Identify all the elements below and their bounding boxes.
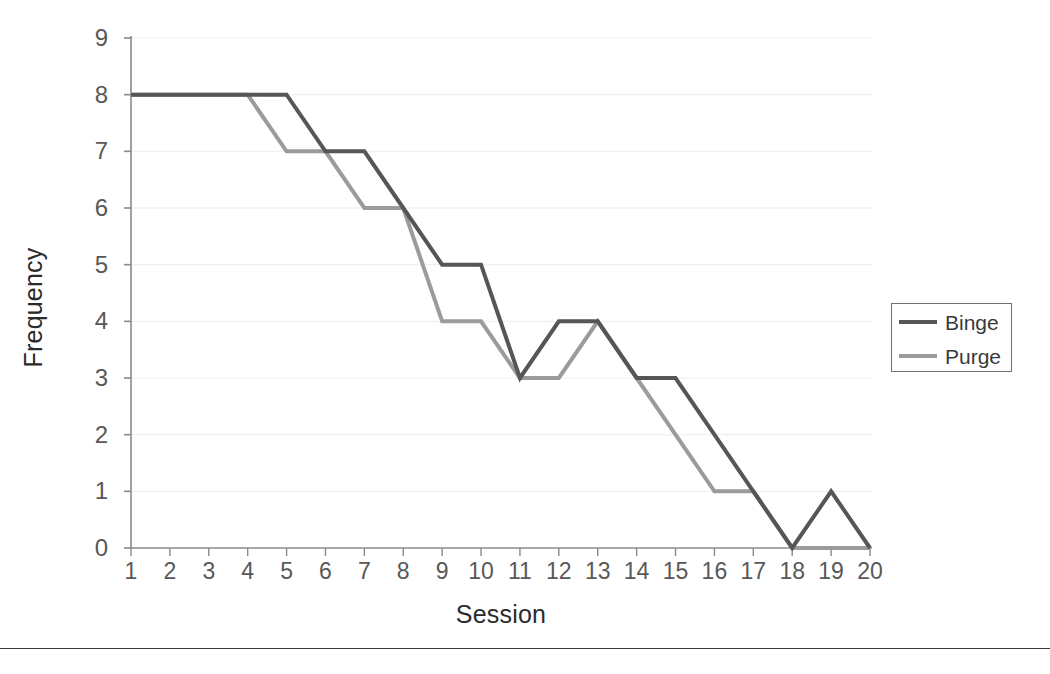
y-tick-label-7: 7 xyxy=(68,139,108,163)
legend-label-binge: Binge xyxy=(945,312,999,333)
y-tick-label-5: 5 xyxy=(68,253,108,277)
x-axis-title: Session xyxy=(131,600,871,629)
chart-legend: Binge Purge xyxy=(891,303,1012,372)
chart-figure: Frequency 0123456789 1234567891011121314… xyxy=(0,0,1050,674)
y-tick-label-0: 0 xyxy=(68,536,108,560)
y-tick-label-6: 6 xyxy=(68,196,108,220)
x-tick-label-20: 20 xyxy=(847,560,893,583)
axis-lines-group xyxy=(131,36,872,548)
y-tick-label-8: 8 xyxy=(68,83,108,107)
y-tick-label-1: 1 xyxy=(68,479,108,503)
y-tick-label-9: 9 xyxy=(68,26,108,50)
gridlines-group xyxy=(131,38,872,491)
legend-label-purge: Purge xyxy=(945,346,1001,367)
y-tick-label-3: 3 xyxy=(68,366,108,390)
footer-divider xyxy=(0,648,1050,649)
tick-marks-group xyxy=(124,38,870,556)
legend-item-purge: Purge xyxy=(892,339,1011,373)
legend-item-binge: Binge xyxy=(892,305,1011,339)
y-tick-label-2: 2 xyxy=(68,423,108,447)
legend-swatch-purge xyxy=(899,354,937,358)
legend-swatch-binge xyxy=(899,320,937,324)
y-tick-label-4: 4 xyxy=(68,309,108,333)
